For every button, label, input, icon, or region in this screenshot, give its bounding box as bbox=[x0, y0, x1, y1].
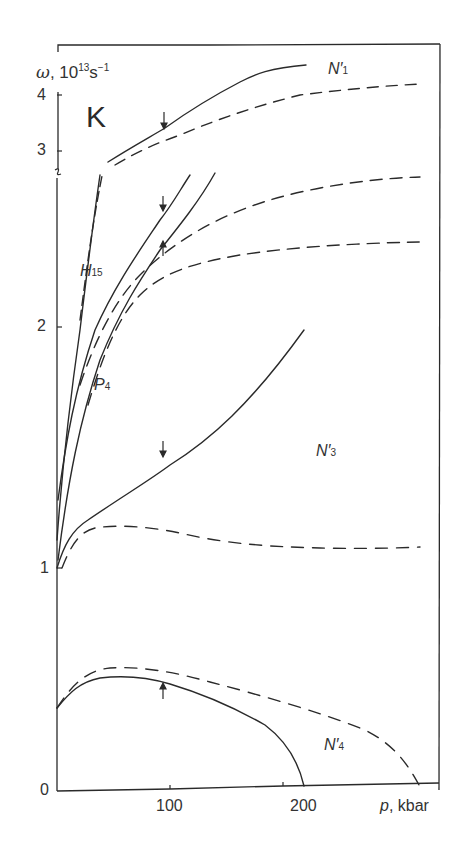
y-axis-title-text: , 10 bbox=[50, 63, 78, 82]
curve-N3-solid bbox=[57, 330, 304, 568]
curve-N1-dashed bbox=[115, 84, 420, 165]
arrow-down-icon bbox=[160, 441, 166, 457]
y-axis-title-unit: s bbox=[89, 63, 98, 82]
curve-N4-solid bbox=[57, 677, 304, 786]
plot-frame bbox=[55, 44, 440, 791]
curve-label-N1: N′1 bbox=[328, 60, 348, 78]
curve-P4-upper-solid bbox=[58, 175, 190, 500]
curve-P4-upper-dashed bbox=[80, 177, 420, 385]
arrow-markers bbox=[160, 112, 167, 699]
curve-label-P4: P4 bbox=[94, 376, 110, 394]
curve-P4-lower-solid bbox=[58, 173, 215, 560]
y-tick-label-0: 0 bbox=[40, 781, 49, 799]
arrow-up-icon bbox=[160, 683, 166, 699]
y-tick-label-1: 1 bbox=[40, 559, 49, 577]
curve-P4-lower-dashed bbox=[88, 242, 420, 405]
curve-label-N4: N′4 bbox=[324, 736, 344, 754]
y-tick-label-4: 4 bbox=[37, 86, 46, 104]
y-axis-title-exponent: 13 bbox=[78, 62, 89, 73]
curve-label-H15: H15 bbox=[80, 262, 103, 280]
curve-H15-solid bbox=[57, 175, 100, 540]
curve-H15-dashed bbox=[80, 176, 102, 320]
y-tick-label-3: 3 bbox=[37, 141, 46, 159]
y-axis-title: ω, 1013s−1 bbox=[36, 62, 109, 83]
x-tick-label-100: 100 bbox=[156, 797, 183, 815]
curve-N3-dashed bbox=[62, 526, 420, 568]
y-tick-label-2: 2 bbox=[37, 317, 46, 335]
arrow-down-icon bbox=[160, 196, 166, 211]
y-axis-title-unit-exponent: −1 bbox=[98, 62, 109, 73]
x-tick-label-200: 200 bbox=[290, 797, 317, 815]
panel-label: K bbox=[86, 100, 106, 134]
curve-label-N3: N′3 bbox=[316, 442, 336, 460]
curve-N4-dashed bbox=[57, 668, 419, 785]
curve-N1-solid bbox=[108, 65, 306, 162]
x-axis-title: p, kbar bbox=[380, 797, 429, 815]
chart-canvas bbox=[0, 0, 462, 848]
